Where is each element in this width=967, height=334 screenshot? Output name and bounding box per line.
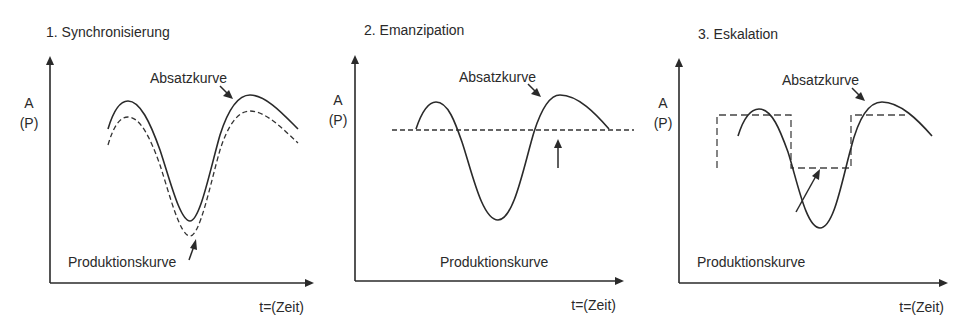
produktion-arrow-icon	[812, 169, 820, 180]
produktion-pointer	[796, 176, 816, 212]
y-axis-label-a: A	[333, 92, 343, 108]
y-axis-label-p: (P)	[20, 115, 39, 131]
y-axis-label-p: (P)	[329, 112, 348, 128]
absatz-label: Absatzkurve	[150, 70, 227, 86]
y-axis-label-a: A	[658, 95, 668, 111]
absatz-curve	[108, 95, 298, 221]
produktion-label: Produktionskurve	[440, 254, 548, 270]
x-axis-arrow-icon	[939, 279, 948, 287]
x-axis-label: t=(Zeit)	[259, 299, 304, 315]
panel-title: 3. Eskalation	[698, 26, 778, 42]
absatz-label: Absatzkurve	[782, 72, 859, 88]
x-axis-arrow-icon	[615, 277, 624, 285]
produktion-curve	[108, 111, 298, 236]
absatz-curve	[416, 95, 609, 220]
produktion-label: Produktionskurve	[697, 254, 805, 270]
y-axis-arrow-icon	[351, 55, 359, 64]
absatz-curve	[738, 102, 932, 228]
panel-emanzipation: 2. Emanzipation A (P) t=(Zeit) Absatzkur…	[329, 22, 634, 313]
x-axis-label: t=(Zeit)	[571, 297, 616, 313]
panel-eskalation: 3. Eskalation A (P) t=(Zeit) Absatzkurve…	[654, 26, 948, 315]
produktion-arrow-icon	[190, 239, 197, 250]
y-axis-arrow-icon	[46, 56, 54, 65]
absatz-label: Absatzkurve	[459, 69, 536, 85]
panel-title: 1. Synchronisierung	[46, 24, 170, 40]
produktion-arrow-icon	[554, 139, 562, 148]
diagram-stage: 1. Synchronisierung A (P) t=(Zeit) Absat…	[0, 0, 967, 334]
y-axis-label-p: (P)	[654, 115, 673, 131]
x-axis-arrow-icon	[305, 279, 314, 287]
x-axis-label: t=(Zeit)	[899, 299, 944, 315]
produktion-step-curve	[717, 115, 905, 168]
produktion-label: Produktionskurve	[68, 254, 176, 270]
y-axis-label-a: A	[24, 95, 34, 111]
y-axis-arrow-icon	[675, 58, 683, 67]
panel-title: 2. Emanzipation	[364, 22, 464, 38]
panel-synchronisierung: 1. Synchronisierung A (P) t=(Zeit) Absat…	[20, 24, 314, 315]
